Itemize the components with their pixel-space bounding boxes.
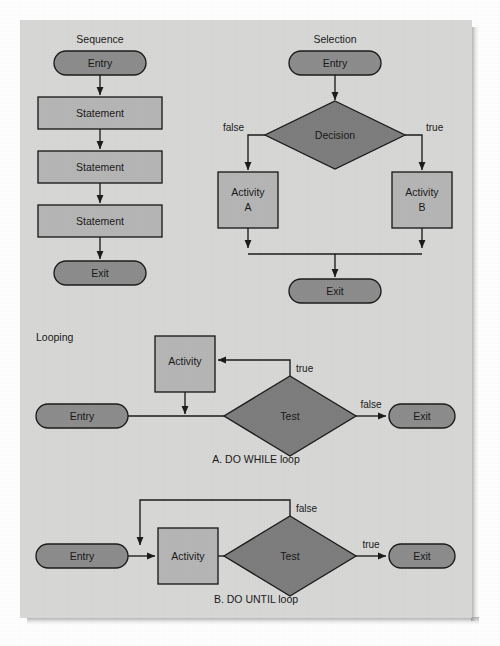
sequence-section-title: Sequence xyxy=(76,33,123,45)
node-label: Activity xyxy=(168,355,202,367)
node-do-until-activity: Activity xyxy=(158,528,218,584)
flowchart-figure: Sequence Entry Statement Statement xyxy=(0,0,500,646)
process-shape xyxy=(218,172,278,228)
node-label-line2: B xyxy=(418,201,425,213)
panel-shadow-bottom xyxy=(27,617,479,626)
node-label: Test xyxy=(280,550,299,562)
panel-shadow-right xyxy=(471,27,480,621)
node-label: Entry xyxy=(70,550,95,562)
node-sequence-statement-3: Statement xyxy=(38,205,162,237)
node-do-until-entry: Entry xyxy=(36,544,128,568)
node-sequence-statement-2: Statement xyxy=(38,151,162,183)
node-do-while-exit: Exit xyxy=(389,404,455,428)
node-label: Activity xyxy=(231,186,265,198)
node-label: Entry xyxy=(88,57,113,69)
node-selection-exit: Exit xyxy=(289,279,381,303)
node-label-line2: A xyxy=(244,201,251,213)
node-label: Exit xyxy=(326,285,344,297)
node-selection-activity-b: Activity B xyxy=(392,172,452,228)
node-do-until-exit: Exit xyxy=(389,544,455,568)
node-label: Exit xyxy=(413,410,431,422)
node-selection-entry: Entry xyxy=(289,51,381,75)
node-label: Entry xyxy=(323,57,348,69)
node-sequence-entry: Entry xyxy=(54,51,146,75)
do-while-caption: A. DO WHILE loop xyxy=(212,453,300,465)
node-sequence-statement-1: Statement xyxy=(38,97,162,129)
node-label: Test xyxy=(280,410,299,422)
node-label: Statement xyxy=(76,215,124,227)
node-label: Exit xyxy=(91,267,109,279)
looping-section-title: Looping xyxy=(36,331,74,343)
node-label: Decision xyxy=(315,129,355,141)
process-shape xyxy=(392,172,452,228)
node-do-while-entry: Entry xyxy=(36,404,128,428)
selection-section-title: Selection xyxy=(313,33,356,45)
node-label: Entry xyxy=(70,410,95,422)
node-label: Exit xyxy=(413,550,431,562)
node-sequence-exit: Exit xyxy=(54,261,146,285)
do-until-caption: B. DO UNTIL loop xyxy=(214,593,298,605)
edge-label-false: false xyxy=(296,503,318,514)
flowchart-canvas: Sequence Entry Statement Statement xyxy=(0,0,500,646)
edge-label-false: false xyxy=(360,399,382,410)
node-label: Statement xyxy=(76,161,124,173)
edge-label-true: true xyxy=(426,122,444,133)
node-label: Activity xyxy=(171,550,205,562)
node-label: Activity xyxy=(405,186,439,198)
edge-label-true: true xyxy=(296,363,314,374)
node-label: Statement xyxy=(76,107,124,119)
node-do-while-activity: Activity xyxy=(155,336,215,392)
edge-label-true: true xyxy=(362,539,380,550)
node-selection-activity-a: Activity A xyxy=(218,172,278,228)
edge-label-false: false xyxy=(223,122,245,133)
